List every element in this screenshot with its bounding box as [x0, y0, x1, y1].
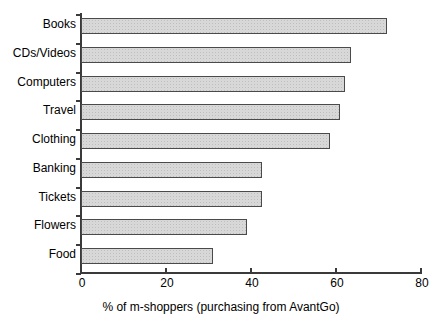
- y-axis-tick-mark: [76, 43, 81, 45]
- x-axis-tick-mark: [335, 268, 337, 274]
- bar-food: [81, 248, 213, 264]
- x-axis-tick-mark: [165, 268, 167, 274]
- y-axis-tick-label: Clothing: [0, 133, 76, 146]
- x-axis-tick-label: 20: [147, 277, 187, 290]
- y-axis-tick-label: Travel: [0, 104, 76, 117]
- bar-clothing: [81, 133, 330, 149]
- y-axis-tick-mark: [76, 14, 81, 16]
- bar-flowers: [81, 219, 247, 235]
- x-axis-tick-mark: [80, 268, 82, 274]
- bar-computers: [81, 76, 345, 92]
- y-axis-tick-mark: [76, 187, 81, 189]
- bar-banking: [81, 162, 262, 178]
- x-axis-tick-label: 0: [62, 277, 102, 290]
- y-axis-tick-label: Books: [0, 18, 76, 31]
- x-axis-title: % of m-shoppers (purchasing from AvantGo…: [0, 300, 442, 314]
- bar-cds-videos: [81, 47, 351, 63]
- y-axis-tick-mark: [76, 158, 81, 160]
- y-axis-tick-mark: [76, 129, 81, 131]
- x-axis-tick-mark: [250, 268, 252, 274]
- y-axis-labels: Books CDs/Videos Computers Travel Clothi…: [0, 14, 76, 273]
- plot-area: [81, 14, 421, 273]
- x-axis-tick-label: 60: [317, 277, 357, 290]
- y-axis-tick-mark: [76, 100, 81, 102]
- x-axis-tick-mark: [420, 268, 422, 274]
- y-axis-tick-mark: [76, 215, 81, 217]
- bar-travel: [81, 104, 340, 120]
- y-axis-tick-label: CDs/Videos: [0, 47, 76, 60]
- bar-books: [81, 18, 387, 34]
- y-axis-tick-label: Computers: [0, 76, 76, 89]
- y-axis-tick-label: Tickets: [0, 191, 76, 204]
- x-axis-tick-label: 80: [402, 277, 442, 290]
- bar-chart: Books CDs/Videos Computers Travel Clothi…: [0, 0, 442, 327]
- y-axis-tick-label: Flowers: [0, 219, 76, 232]
- y-axis-tick-label: Banking: [0, 162, 76, 175]
- x-axis-tick-label: 40: [232, 277, 272, 290]
- y-axis-tick-mark: [76, 244, 81, 246]
- bar-tickets: [81, 191, 262, 207]
- y-axis-tick-label: Food: [0, 248, 76, 261]
- y-axis-tick-mark: [76, 72, 81, 74]
